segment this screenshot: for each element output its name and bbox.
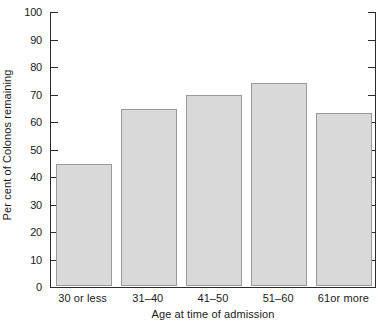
y-axis-tick-label-60: 60 bbox=[16, 117, 42, 128]
x-axis-tick-label-1: 31–40 bbox=[115, 292, 180, 304]
y-axis-tick-label-20: 20 bbox=[16, 227, 42, 238]
bar-2 bbox=[186, 95, 242, 286]
y-axis-tick-80 bbox=[51, 67, 58, 68]
y-axis-tick-right-90 bbox=[368, 40, 375, 41]
x-axis-tick-labels: 30 or less31–4041–5051–6061or more bbox=[50, 292, 376, 306]
y-axis-tick-70 bbox=[51, 95, 58, 96]
y-axis-tick-label-0: 0 bbox=[16, 282, 42, 293]
y-axis-title-text: Per cent of Colonos remaining bbox=[1, 70, 13, 221]
y-axis-tick-label-70: 70 bbox=[16, 90, 42, 101]
y-axis-tick-label-90: 90 bbox=[16, 35, 42, 46]
y-axis-tick-50 bbox=[51, 150, 58, 151]
y-axis-tick-0 bbox=[51, 287, 58, 288]
plot-area bbox=[50, 12, 376, 287]
bar-4 bbox=[316, 113, 372, 286]
y-axis-tick-right-0 bbox=[368, 287, 375, 288]
y-axis-tick-right-70 bbox=[368, 95, 375, 96]
x-axis-tick-label-4: 61or more bbox=[311, 292, 376, 304]
bar-3 bbox=[251, 83, 307, 287]
y-axis-tick-label-100: 100 bbox=[16, 7, 42, 18]
y-axis-tick-label-30: 30 bbox=[16, 200, 42, 211]
y-axis-tick-label-50: 50 bbox=[16, 145, 42, 156]
bar-0 bbox=[56, 164, 112, 286]
bar-1 bbox=[121, 109, 177, 286]
y-axis-tick-label-10: 10 bbox=[16, 255, 42, 266]
y-axis-tick-label-40: 40 bbox=[16, 172, 42, 183]
x-axis-title: Age at time of admission bbox=[50, 308, 376, 320]
y-axis-title: Per cent of Colonos remaining bbox=[0, 0, 14, 290]
y-axis-tick-label-80: 80 bbox=[16, 62, 42, 73]
x-axis-tick-label-2: 41–50 bbox=[180, 292, 245, 304]
y-axis-tick-90 bbox=[51, 40, 58, 41]
cropped-caption-remnant bbox=[84, 0, 374, 6]
x-axis-tick-label-0: 30 or less bbox=[50, 292, 115, 304]
y-axis-tick-right-80 bbox=[368, 67, 375, 68]
y-axis-line-right bbox=[375, 12, 376, 288]
bar-chart-figure: Per cent of Colonos remaining 0102030405… bbox=[0, 0, 382, 324]
x-axis-line bbox=[50, 287, 376, 288]
y-axis-tick-right-100 bbox=[368, 12, 375, 13]
x-axis-tick-label-3: 51–60 bbox=[246, 292, 311, 304]
y-axis-tick-100 bbox=[51, 12, 58, 13]
y-axis-tick-60 bbox=[51, 122, 58, 123]
